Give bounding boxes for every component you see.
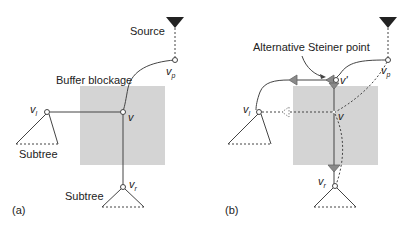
node-vp <box>173 58 178 63</box>
node-vr-label: vr <box>129 178 138 192</box>
arrowhead-icon <box>320 74 326 79</box>
buffer-bottom-icon <box>328 165 340 172</box>
node-vl <box>45 110 50 115</box>
node-vp-label: vp <box>166 65 176 80</box>
node-vr <box>121 185 126 190</box>
buffer-blockage-region-b <box>293 86 378 165</box>
caption-a: (a) <box>12 204 25 216</box>
source-icon <box>166 17 184 28</box>
subtree-bottom <box>102 189 144 207</box>
subtree-bottom-b <box>314 188 356 207</box>
node-vp-b <box>386 58 391 63</box>
steiner-tree-diagram: Source Buffer blockage v vp vl Subtree v… <box>0 0 409 225</box>
subtree-left-label: Subtree <box>19 148 58 160</box>
node-v <box>121 110 126 115</box>
subtree-left-b <box>228 114 271 144</box>
node-vprime <box>334 78 339 83</box>
node-vr-b <box>333 184 338 189</box>
node-vl-label: vl <box>30 103 38 117</box>
source-icon-b <box>379 17 397 28</box>
node-vl-b-label: vl <box>243 103 251 117</box>
subtree-bottom-label: Subtree <box>65 190 104 202</box>
subtree-left <box>16 114 58 144</box>
panel-b: Alternative Steiner point v' v vp vl vr … <box>225 17 397 216</box>
node-v-b <box>333 111 336 114</box>
node-vl-b <box>257 110 262 115</box>
removed-buffer-icon <box>282 107 289 117</box>
caption-b: (b) <box>225 204 238 216</box>
panel-a: Source Buffer blockage v vp vl Subtree v… <box>12 17 184 216</box>
new-wire-buffer-vl <box>256 80 289 110</box>
steiner-pointer-arrow <box>302 56 324 77</box>
steiner-point-label: Alternative Steiner point <box>253 41 370 53</box>
node-vr-b-label: vr <box>318 175 327 189</box>
buffer-left-icon <box>289 75 297 85</box>
blockage-label: Buffer blockage <box>56 74 132 86</box>
node-vprime-label: v' <box>340 74 349 86</box>
node-vp-b-label: vp <box>381 64 391 79</box>
source-label: Source <box>130 25 165 37</box>
